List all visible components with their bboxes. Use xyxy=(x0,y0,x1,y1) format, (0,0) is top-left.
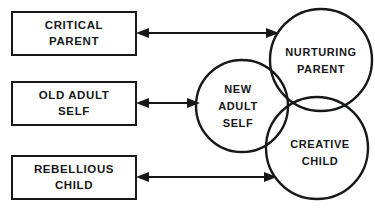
circle-label-creative-child-line2: CHILD xyxy=(302,155,339,167)
box-label-old-adult-self-line2: SELF xyxy=(58,105,90,117)
circle-label-new-adult-self-line3: SELF xyxy=(223,117,254,129)
label-group-nurturing-parent: NURTURING PARENT xyxy=(285,46,356,75)
circle-label-nurturing-parent-line2: PARENT xyxy=(297,63,345,75)
box-rebellious-child[interactable]: REBELLIOUS CHILD xyxy=(12,156,136,199)
diagram-svg: CRITICAL PARENT OLD ADULT SELF REBELLIOU… xyxy=(0,0,375,214)
circle-label-nurturing-parent-line1: NURTURING xyxy=(285,46,356,58)
circle-nurturing-parent[interactable] xyxy=(270,9,372,111)
label-group-new-adult-self: NEW ADULT SELF xyxy=(218,83,257,129)
circle-label-creative-child-line1: CREATIVE xyxy=(290,138,350,150)
box-label-rebellious-child-line2: CHILD xyxy=(55,179,93,191)
connector-rebellious-child-to-creative-child xyxy=(136,172,277,182)
connector-old-adult-self-to-new-adult-self xyxy=(136,98,200,108)
circle-label-new-adult-self-line1: NEW xyxy=(224,83,251,95)
box-critical-parent[interactable]: CRITICAL PARENT xyxy=(12,12,136,55)
label-group-creative-child: CREATIVE CHILD xyxy=(290,138,350,167)
arrow-head-middle-left xyxy=(136,98,149,108)
arrow-head-bottom-left xyxy=(136,172,149,182)
box-label-old-adult-self-line1: OLD ADULT xyxy=(39,89,110,101)
arrow-head-top-left xyxy=(136,28,149,38)
box-old-adult-self[interactable]: OLD ADULT SELF xyxy=(12,82,136,125)
box-label-critical-parent-line1: CRITICAL xyxy=(45,19,103,31)
diagram-canvas: CRITICAL PARENT OLD ADULT SELF REBELLIOU… xyxy=(0,0,375,214)
arrow-head-middle-right xyxy=(187,98,200,108)
circle-label-new-adult-self-line2: ADULT xyxy=(218,100,257,112)
connector-critical-parent-to-nurturing-parent xyxy=(136,28,279,38)
box-label-rebellious-child-line1: REBELLIOUS xyxy=(34,163,114,175)
box-label-critical-parent-line2: PARENT xyxy=(49,35,99,47)
